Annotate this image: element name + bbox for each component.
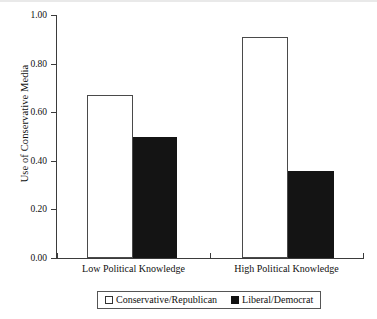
bar-high-liberal-democrat xyxy=(288,171,334,258)
legend-swatch-filled-square-icon xyxy=(231,296,239,304)
legend-entry-liberal-democrat: Liberal/Democrat xyxy=(231,295,313,305)
bar-low-liberal-democrat xyxy=(133,137,177,259)
x-category-label-low: Low Political Knowledge xyxy=(57,263,210,275)
bar-low-conservative-republican xyxy=(87,95,133,258)
legend-label-liberal-democrat: Liberal/Democrat xyxy=(242,295,313,305)
bar-chart-figure: Use of Conservative Media 0.00 0.20 0.40… xyxy=(0,0,377,319)
bar-high-conservative-republican xyxy=(242,37,288,258)
chart-legend: Conservative/Republican Liberal/Democrat xyxy=(97,291,321,309)
legend-label-conservative-republican: Conservative/Republican xyxy=(116,295,217,305)
scan-edge xyxy=(0,0,377,2)
x-category-label-high: High Political Knowledge xyxy=(210,263,363,275)
legend-swatch-open-square-icon xyxy=(105,296,113,304)
bars-layer xyxy=(0,15,377,258)
legend-entry-conservative-republican: Conservative/Republican xyxy=(105,295,217,305)
